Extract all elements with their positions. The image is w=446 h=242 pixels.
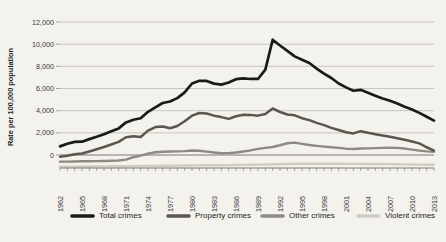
y-axis-tick-label: 6,000: [36, 84, 54, 93]
y-axis-tick-label: 8,000: [36, 62, 54, 71]
chart-canvas: 1962196519681971197419771980198319861989…: [0, 0, 446, 242]
x-axis-tick-label: 1995: [298, 196, 307, 212]
x-axis-tick-label: 1968: [100, 196, 109, 212]
legend-label-property-crimes: Property crimes: [195, 211, 251, 220]
legend-label-violent-crimes: Violent crimes: [385, 211, 435, 220]
x-axis-tick-label: 2013: [430, 196, 439, 212]
x-axis-tick-label: 1965: [78, 196, 87, 212]
x-axis-tick-label: 1962: [56, 196, 65, 212]
y-axis-tick-label: 0: [50, 151, 54, 160]
x-axis-tick-label: 1977: [166, 196, 175, 212]
x-axis-tick-label: 1986: [232, 196, 241, 212]
legend-label-other-crimes: Other crimes: [289, 211, 335, 220]
x-axis-tick-label: 2007: [386, 196, 395, 212]
x-axis-tick-label: 1989: [254, 196, 263, 212]
y-axis-title: Rate per 100,000 population: [6, 47, 15, 146]
x-axis-tick-label: 1992: [276, 196, 285, 212]
x-axis-tick-label: 1998: [320, 196, 329, 212]
x-axis-tick-label: 1971: [122, 196, 131, 212]
crime-rate-line-chart: 1962196519681971197419771980198319861989…: [0, 0, 446, 242]
x-axis-tick-label: 1980: [188, 196, 197, 212]
x-axis-tick-label: 2001: [342, 196, 351, 212]
y-axis-tick-label: 4,000: [36, 106, 54, 115]
x-axis-tick-label: 1974: [144, 196, 153, 212]
y-axis-tick-label: 2,000: [36, 128, 54, 137]
y-axis-tick-label: 12,000: [32, 18, 54, 27]
y-axis-tick-label: 10,000: [32, 40, 54, 49]
x-axis-tick-label: 1983: [210, 196, 219, 212]
x-axis-tick-label: 2004: [364, 196, 373, 212]
chart-background: [0, 0, 446, 242]
legend-label-total-crimes: Total crimes: [99, 211, 142, 220]
x-axis-tick-label: 2010: [408, 196, 417, 212]
